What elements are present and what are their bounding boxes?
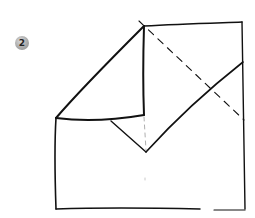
folding-diagram: 2 [0, 0, 255, 218]
square-bottom-edge [56, 208, 200, 209]
center-crease-dashed [144, 117, 146, 150]
fold-illustration [0, 0, 255, 218]
square-right-edge [242, 22, 245, 209]
square-left-edge [55, 118, 56, 209]
square-top-edge [144, 22, 242, 26]
inner-v-fold-left [111, 121, 146, 152]
flap-left-diagonal [56, 26, 144, 118]
flap-vertical-edge [143, 26, 144, 115]
right-diagonal-edge [146, 62, 243, 152]
flap-bottom-edge [56, 115, 144, 120]
